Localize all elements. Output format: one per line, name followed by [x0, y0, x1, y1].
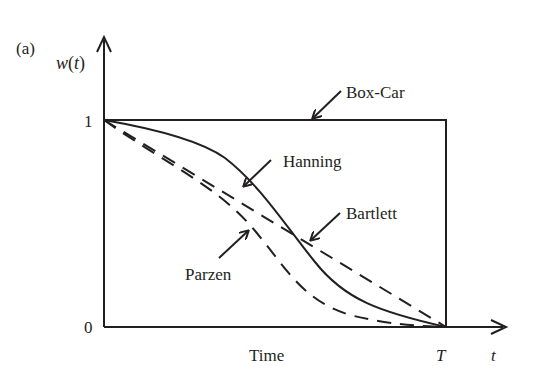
hanning-label: Hanning [283, 152, 342, 171]
y-tick-one: 1 [84, 112, 93, 131]
parzen-arrow-icon [219, 231, 248, 258]
bartlett-annotation: Bartlett [311, 204, 397, 240]
bartlett-label: Bartlett [346, 204, 397, 223]
x-axis-symbol: t [491, 346, 497, 365]
window-function-diagram: (a) w(t) 1 0 Time T t Box-Car Hanning Ba… [0, 0, 538, 378]
x-axis-label: Time [249, 346, 284, 365]
boxcar-arrow-icon [313, 91, 341, 118]
hanning-arrow-icon [244, 160, 271, 186]
x-tick-T: T [436, 346, 447, 365]
parzen-label: Parzen [185, 265, 232, 284]
bartlett-curve [104, 120, 446, 327]
y-axis [97, 37, 111, 327]
boxcar-annotation: Box-Car [313, 83, 405, 118]
y-axis-label: w(t) [56, 53, 85, 74]
y-tick-zero: 0 [84, 318, 93, 337]
bartlett-arrow-icon [311, 213, 340, 240]
parzen-annotation: Parzen [185, 231, 248, 284]
boxcar-label: Box-Car [346, 83, 405, 102]
panel-label: (a) [16, 39, 35, 58]
hanning-annotation: Hanning [244, 152, 342, 186]
